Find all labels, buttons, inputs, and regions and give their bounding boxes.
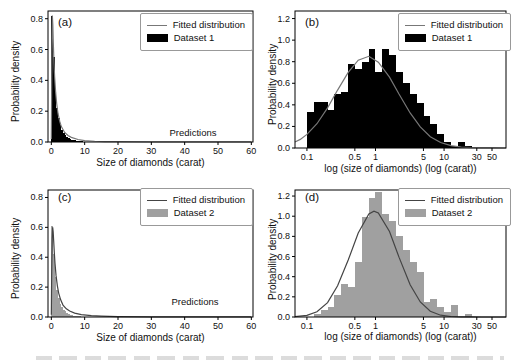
histogram-bar	[334, 94, 341, 148]
legend-label: Fitted distribution	[173, 19, 245, 31]
y-tick-label: 1.2	[277, 14, 290, 24]
histogram-bar	[403, 83, 410, 148]
histogram-bar	[334, 295, 341, 317]
histogram-bar	[362, 217, 369, 317]
histogram-bar	[66, 137, 68, 142]
histogram-bar	[396, 236, 403, 317]
histogram-bar	[61, 307, 63, 317]
x-tick-label: 10	[80, 146, 90, 156]
x-axis-label: log (size of diamonds) (log (carat))	[295, 163, 506, 174]
y-tick-label: 0.0	[30, 312, 43, 322]
x-tick-label: 1	[373, 321, 378, 331]
x-tick-label: 50	[487, 152, 497, 162]
histogram-bar	[68, 138, 70, 142]
histogram-bars	[307, 49, 472, 148]
histogram-bar	[60, 125, 62, 142]
histogram-bar	[382, 49, 389, 148]
histogram-bar	[417, 272, 424, 317]
histogram-bar	[55, 277, 57, 317]
y-tick-label: 1.0	[277, 211, 290, 221]
y-tick-label: 0.8	[277, 231, 290, 241]
histogram-bar	[63, 310, 65, 317]
x-tick-label: 10	[439, 321, 449, 331]
y-tick-label: 0.4	[30, 75, 43, 85]
legend-label: Dataset 2	[432, 207, 473, 219]
y-tick-label: 0.4	[277, 100, 290, 110]
x-tick-label: 30	[146, 146, 156, 156]
histogram-bar	[58, 298, 60, 317]
histogram-bar	[375, 72, 382, 148]
y-tick-label: 0.0	[30, 137, 43, 147]
histogram-bar	[348, 287, 355, 317]
legend-label: Dataset 2	[174, 207, 215, 219]
histogram-bar	[417, 103, 424, 148]
x-tick-label: 30	[472, 321, 482, 331]
legend-item-dataset: Dataset 1	[405, 32, 503, 44]
legend-label: Fitted distribution	[431, 194, 503, 206]
legend-label: Fitted distribution	[173, 194, 245, 206]
legend-item-fitted: Fitted distribution	[147, 19, 245, 31]
histogram-bar	[389, 221, 396, 317]
histogram-bar	[355, 69, 362, 148]
y-tick-label: 0.0	[277, 143, 290, 153]
x-tick-label: 5	[421, 152, 426, 162]
fitted-line-swatch	[147, 25, 167, 26]
y-tick-label: 0.8	[30, 14, 43, 24]
x-tick-label: 50	[213, 146, 223, 156]
y-tick-label: 0.6	[30, 222, 43, 232]
x-tick-label: 0.5	[349, 152, 362, 162]
histogram-bars	[51, 16, 91, 142]
histogram-bar	[451, 305, 458, 317]
x-tick-label: 10	[80, 321, 90, 331]
panel-d: 0.10.5151030500.00.20.40.60.81.01.2 Prob…	[258, 180, 516, 363]
histogram-bar	[60, 304, 62, 317]
x-tick-label: 0.5	[349, 321, 362, 331]
y-tick-label: 0.6	[30, 45, 43, 55]
legend-item-dataset: Dataset 1	[147, 32, 245, 44]
histogram-bars	[51, 226, 91, 317]
histogram-bar	[362, 62, 369, 148]
y-tick-label: 0.4	[30, 252, 43, 262]
x-tick-label: 20	[113, 321, 123, 331]
fitted-line-swatch	[147, 200, 167, 201]
y-tick-label: 0.2	[30, 106, 43, 116]
y-tick-label: 0.0	[277, 312, 290, 322]
y-tick-label: 0.8	[277, 57, 290, 67]
legend-label: Dataset 1	[174, 32, 215, 44]
dataset-swatch	[405, 34, 426, 42]
x-tick-label: 0	[49, 146, 54, 156]
dataset-swatch	[147, 34, 168, 42]
panel-letter: (d)	[305, 191, 319, 203]
legend: Fitted distribution Dataset 2	[398, 188, 511, 226]
x-tick-label: 0.1	[301, 321, 314, 331]
histogram-bar	[424, 302, 431, 317]
fitted-line-swatch	[405, 25, 425, 26]
histogram-bar	[341, 92, 348, 148]
legend: Fitted distribution Dataset 2	[140, 188, 253, 226]
fitted-line-swatch	[405, 200, 425, 201]
legend-label: Dataset 1	[432, 32, 473, 44]
y-tick-label: 0.8	[30, 192, 43, 202]
histogram-bar	[328, 110, 335, 148]
legend-item-fitted: Fitted distribution	[147, 194, 245, 206]
y-axis-label: Probability density	[10, 218, 21, 299]
histogram-bar	[314, 102, 321, 148]
x-axis-label: log (size of diamonds) (log (carat))	[295, 331, 506, 342]
panel-c: 01020304050600.00.20.40.60.8 Probability…	[0, 180, 258, 363]
legend-item-fitted: Fitted distribution	[405, 19, 503, 31]
histogram-bar	[348, 64, 355, 148]
y-axis-label: Probability density	[267, 219, 278, 300]
x-tick-label: 60	[246, 146, 256, 156]
x-tick-label: 0	[49, 321, 54, 331]
histogram-bar	[430, 299, 437, 317]
x-tick-label: 1	[373, 152, 378, 162]
x-tick-label: 50	[213, 321, 223, 331]
y-tick-label: 0.2	[277, 292, 290, 302]
legend-item-dataset: Dataset 2	[405, 207, 503, 219]
dataset-swatch	[405, 209, 426, 217]
panel-letter: (b)	[305, 16, 319, 28]
panel-letter: (c)	[58, 191, 71, 203]
panel-letter: (a)	[58, 16, 72, 28]
legend: Fitted distribution Dataset 1	[398, 13, 511, 51]
y-axis-label: Probability density	[10, 41, 21, 122]
